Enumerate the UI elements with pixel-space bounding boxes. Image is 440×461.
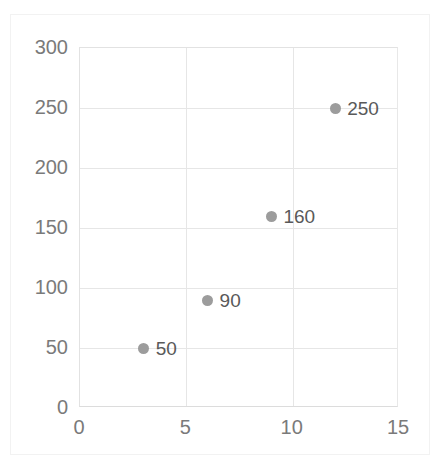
y-axis-tick-label: 200 — [35, 157, 68, 177]
data-point-marker[interactable] — [202, 295, 213, 306]
data-point-marker[interactable] — [330, 103, 341, 114]
y-axis-tick-labels: 050100150200250300 — [0, 0, 68, 461]
gridline-horizontal — [80, 228, 397, 229]
y-axis-tick-label: 250 — [35, 97, 68, 117]
y-axis-tick-label: 50 — [46, 337, 68, 357]
gridline-vertical — [186, 48, 187, 406]
y-axis-tick-label: 100 — [35, 277, 68, 297]
gridline-horizontal — [80, 348, 397, 349]
gridline-horizontal — [80, 168, 397, 169]
data-point-label: 250 — [347, 99, 379, 118]
y-axis-tick-label: 150 — [35, 217, 68, 237]
plot-area: 5090160250 — [79, 47, 398, 407]
data-point-marker[interactable] — [266, 211, 277, 222]
x-axis-tick-label: 5 — [180, 417, 191, 437]
data-point-label: 160 — [283, 207, 315, 226]
data-point-label: 50 — [156, 339, 177, 358]
x-axis-tick-label: 0 — [73, 417, 84, 437]
data-point-label: 90 — [220, 291, 241, 310]
x-axis-tick-label: 10 — [281, 417, 303, 437]
gridline-vertical — [293, 48, 294, 406]
data-point-marker[interactable] — [138, 343, 149, 354]
gridline-horizontal — [80, 288, 397, 289]
y-axis-tick-label: 0 — [57, 397, 68, 417]
scatter-chart: 050100150200250300 5090160250 051015 — [0, 0, 440, 461]
y-axis-tick-label: 300 — [35, 37, 68, 57]
x-axis-tick-labels: 051015 — [0, 417, 440, 447]
x-axis-tick-label: 15 — [387, 417, 409, 437]
